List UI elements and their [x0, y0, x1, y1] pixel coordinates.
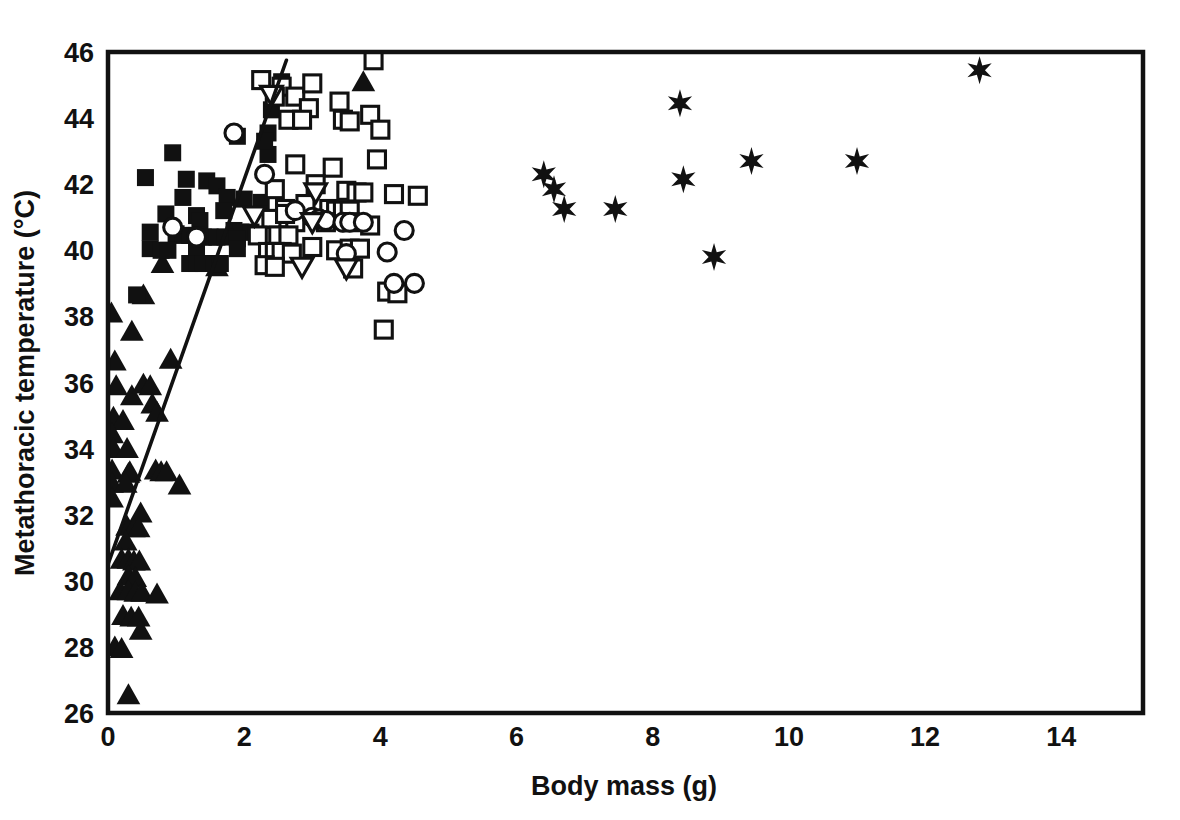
data-point-open-square: [280, 227, 297, 244]
y-tick-label: 30: [64, 567, 94, 597]
data-point-filled-star: [671, 165, 695, 193]
y-tick-label: 42: [64, 170, 94, 200]
data-point-filled-star: [552, 195, 576, 223]
data-point-open-square: [368, 151, 385, 168]
y-axis-title: Metathoracic temperature (°C): [10, 190, 40, 576]
data-point-open-square: [287, 156, 304, 173]
y-tick-label: 38: [64, 302, 94, 332]
x-tick-label: 14: [1046, 722, 1076, 752]
data-markers-layer: [100, 52, 992, 704]
x-tick-label: 12: [910, 722, 940, 752]
data-point-filled-square: [174, 189, 191, 206]
data-point-open-square: [372, 121, 389, 138]
data-point-filled-square: [229, 240, 246, 257]
data-point-open-square: [385, 186, 402, 203]
data-point-open-square: [324, 159, 341, 176]
data-point-filled-triangle: [100, 302, 124, 323]
y-tick-label: 46: [64, 38, 94, 68]
data-point-filled-square: [159, 242, 176, 259]
data-point-open-circle: [164, 218, 182, 236]
data-point-open-circle: [188, 228, 206, 246]
plot-svg: 024681012142628303234363840424446 Body m…: [0, 0, 1180, 820]
data-point-filled-star: [668, 89, 692, 117]
data-point-filled-star: [967, 56, 991, 84]
data-point-filled-square: [128, 286, 145, 303]
data-point-filled-square: [142, 224, 159, 241]
data-point-open-circle: [256, 165, 274, 183]
regression-line-layer: [108, 60, 286, 564]
data-point-open-circle: [225, 124, 243, 142]
y-tick-label: 28: [64, 633, 94, 663]
y-tick-label: 44: [64, 104, 94, 134]
data-point-filled-square: [178, 171, 195, 188]
data-point-open-square: [375, 321, 392, 338]
data-point-filled-star: [702, 243, 726, 271]
data-point-open-square: [409, 187, 426, 204]
data-point-open-square: [355, 184, 372, 201]
data-point-open-circle: [286, 202, 304, 220]
data-point-open-square: [294, 111, 311, 128]
data-point-open-square: [341, 113, 358, 130]
data-point-filled-square: [164, 144, 181, 161]
data-point-open-square: [266, 258, 283, 275]
data-point-open-square: [365, 52, 382, 69]
x-tick-label: 2: [237, 722, 252, 752]
data-point-filled-triangle: [352, 70, 376, 91]
x-axis-title: Body mass (g): [531, 771, 717, 801]
regression-line: [108, 60, 286, 564]
y-tick-label: 32: [64, 501, 94, 531]
data-point-filled-square: [137, 169, 154, 186]
data-point-open-circle: [354, 213, 372, 231]
data-point-open-inverted-triangle: [291, 258, 313, 277]
data-point-open-square: [304, 75, 321, 92]
x-tick-label: 8: [645, 722, 660, 752]
data-point-open-square: [249, 227, 266, 244]
axis-labels-layer: 024681012142628303234363840424446: [64, 38, 1076, 752]
series-filled-star: [532, 56, 992, 271]
data-point-filled-star: [845, 147, 869, 175]
y-tick-label: 40: [64, 236, 94, 266]
data-point-open-circle: [385, 274, 403, 292]
data-point-open-square: [304, 238, 321, 255]
data-point-filled-star: [603, 195, 627, 223]
data-point-filled-star: [739, 147, 763, 175]
x-tick-label: 6: [509, 722, 524, 752]
x-tick-label: 10: [774, 722, 804, 752]
data-point-open-circle: [395, 221, 413, 239]
data-point-filled-square: [191, 212, 208, 229]
data-point-filled-triangle: [117, 683, 141, 704]
data-point-open-circle: [378, 243, 396, 261]
data-point-filled-triangle: [120, 320, 144, 341]
x-tick-label: 4: [373, 722, 388, 752]
x-tick-label: 0: [100, 722, 115, 752]
data-point-open-circle: [405, 274, 423, 292]
scatter-plot-figure: 024681012142628303234363840424446 Body m…: [0, 0, 1180, 820]
data-point-open-square: [331, 93, 348, 110]
y-tick-label: 36: [64, 369, 94, 399]
y-tick-label: 26: [64, 699, 94, 729]
y-tick-label: 34: [64, 435, 94, 465]
